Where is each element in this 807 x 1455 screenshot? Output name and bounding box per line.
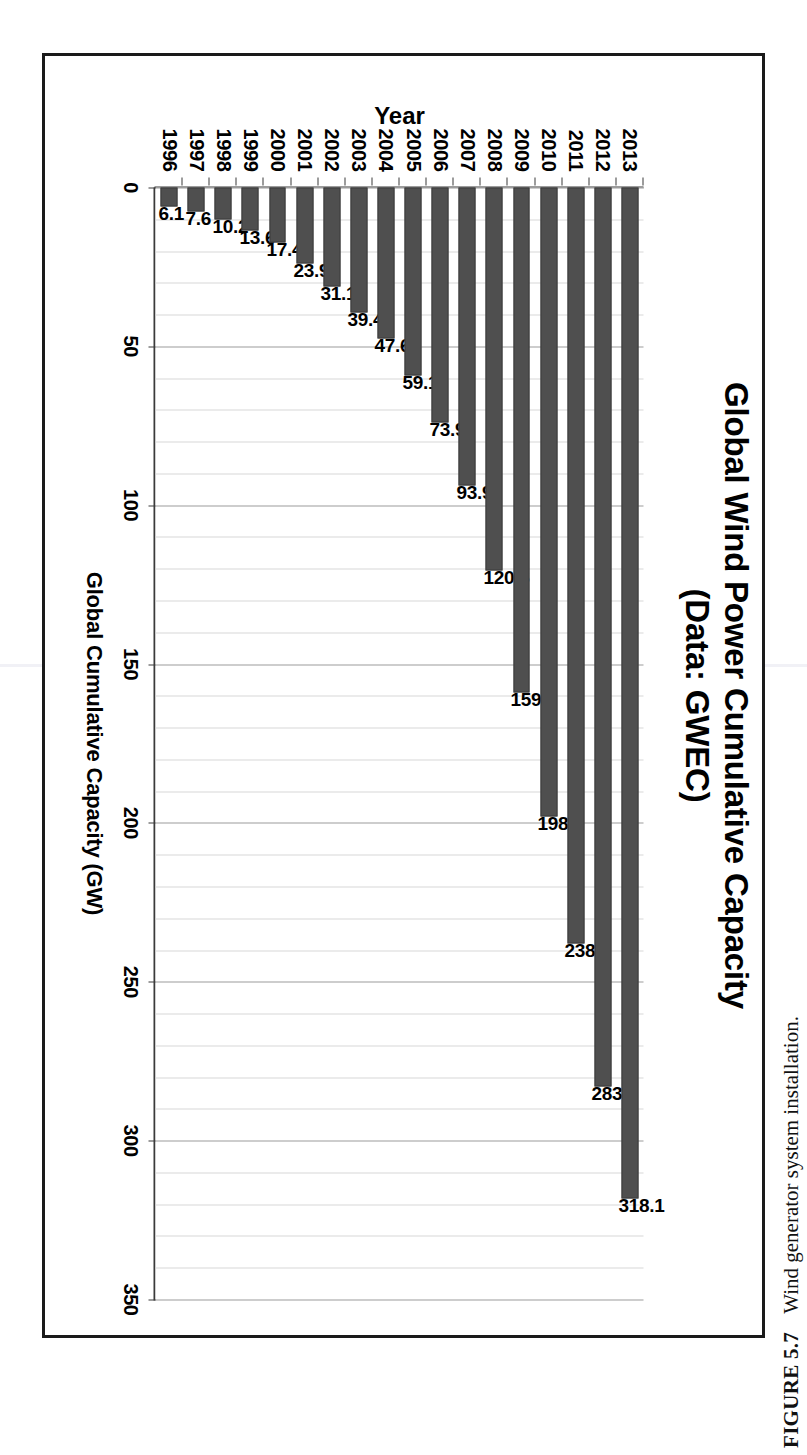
bar-row: 198.0 <box>540 188 557 1300</box>
bar-2008 <box>486 188 503 571</box>
bar-value-label-1996: 6.1 <box>158 203 184 225</box>
bar-2004 <box>377 188 394 339</box>
bar-row: 39.4 <box>350 188 367 1300</box>
bar-2001 <box>296 188 313 264</box>
bar-2007 <box>458 188 475 486</box>
bar-row: 318.1 <box>621 188 638 1300</box>
category-tick-mark <box>208 178 209 186</box>
category-tick-mark <box>534 178 535 186</box>
category-tick-mark <box>181 178 182 186</box>
value-tick-mark <box>148 982 155 983</box>
figure-caption: FIGURE 5.7Wind generator system installa… <box>779 118 804 1448</box>
value-tick-label-350: 350 <box>118 1283 141 1315</box>
value-tick-mark <box>148 823 155 824</box>
value-tick-label-100: 100 <box>118 489 141 521</box>
chart-stage: Global Wind Power Cumulative Capacity (D… <box>46 60 761 1332</box>
bar-row: 238.1 <box>567 188 584 1300</box>
category-tick-mark <box>262 178 263 186</box>
chart-title-line-1: Global Wind Power Cumulative Capacity <box>716 60 755 1332</box>
chart-title-line-2: (Data: GWEC) <box>676 60 715 1332</box>
category-tick-mark <box>615 178 616 186</box>
value-tick-mark <box>148 664 155 665</box>
bar-row: 159.0 <box>513 188 530 1300</box>
bar-2005 <box>404 188 421 376</box>
value-axis-ticks: 050100150200250300350 <box>107 188 149 1300</box>
value-tick-label-50: 50 <box>118 336 141 357</box>
value-tick-label-200: 200 <box>118 807 141 839</box>
value-tick-label-150: 150 <box>118 648 141 680</box>
bar-row: 13.6 <box>242 188 259 1300</box>
bar-2006 <box>431 188 448 423</box>
bar-2003 <box>350 188 367 313</box>
category-tick-label-2011: 2011 <box>564 130 587 172</box>
bar-2011 <box>567 188 584 944</box>
value-tick-label-250: 250 <box>118 966 141 998</box>
figure-frame: Global Wind Power Cumulative Capacity (D… <box>42 53 765 1338</box>
bar-2013 <box>621 188 638 1199</box>
bar-1999 <box>242 188 259 231</box>
value-tick-mark <box>148 346 155 347</box>
bar-row: 120.6 <box>486 188 503 1300</box>
bar-row: 93.9 <box>458 188 475 1300</box>
category-tick-mark <box>371 178 372 186</box>
bar-value-label-2013: 318.1 <box>618 1194 664 1216</box>
value-tick-mark <box>148 1300 155 1301</box>
plot-area: 6.17.610.213.617.423.931.139.447.659.173… <box>155 188 643 1300</box>
bar-2009 <box>513 188 530 693</box>
category-tick-mark <box>561 178 562 186</box>
value-axis-title: Global Cumulative Capacity (GW) <box>80 188 106 1300</box>
bar-row: 59.1 <box>404 188 421 1300</box>
category-tick-mark <box>425 178 426 186</box>
bar-row: 23.9 <box>296 188 313 1300</box>
value-tick-mark <box>148 1141 155 1142</box>
bar-2000 <box>269 188 286 243</box>
category-tick-mark <box>235 178 236 186</box>
bar-row: 6.1 <box>160 188 177 1300</box>
figure-caption-text: Wind generator system installation. <box>779 1016 803 1314</box>
bar-row: 10.2 <box>214 188 231 1300</box>
category-axis-title: Year <box>155 96 643 136</box>
bar-row: 283.0 <box>594 188 611 1300</box>
bar-2002 <box>323 188 340 287</box>
category-tick-mark <box>398 178 399 186</box>
bar-value-label-1997: 7.6 <box>185 208 211 230</box>
value-tick-mark <box>148 505 155 506</box>
category-tick-mark <box>344 178 345 186</box>
bar-row: 17.4 <box>269 188 286 1300</box>
figure-caption-label: FIGURE 5.7 <box>779 1332 803 1448</box>
category-tick-mark <box>290 178 291 186</box>
bar-row: 47.6 <box>377 188 394 1300</box>
bar-series: 6.17.610.213.617.423.931.139.447.659.173… <box>155 188 643 1300</box>
category-tick-mark <box>317 178 318 186</box>
value-tick-label-300: 300 <box>118 1125 141 1157</box>
category-tick-mark <box>452 178 453 186</box>
category-tick-mark <box>506 178 507 186</box>
gridline-major <box>155 1300 643 1301</box>
category-tick-mark <box>479 178 480 186</box>
bar-2010 <box>540 188 557 817</box>
value-tick-mark <box>148 188 155 189</box>
bar-row: 31.1 <box>323 188 340 1300</box>
category-tick-mark <box>588 178 589 186</box>
bar-row: 7.6 <box>187 188 204 1300</box>
bar-row: 73.9 <box>431 188 448 1300</box>
chart-title: Global Wind Power Cumulative Capacity (D… <box>676 60 755 1332</box>
value-tick-label-0: 0 <box>118 182 141 193</box>
category-tick-mark <box>642 178 643 186</box>
bar-2012 <box>594 188 611 1087</box>
